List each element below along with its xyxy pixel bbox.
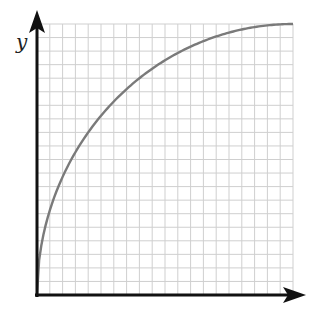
y-axis-label: y [16,30,27,54]
grid [37,24,293,295]
chart [0,0,318,309]
